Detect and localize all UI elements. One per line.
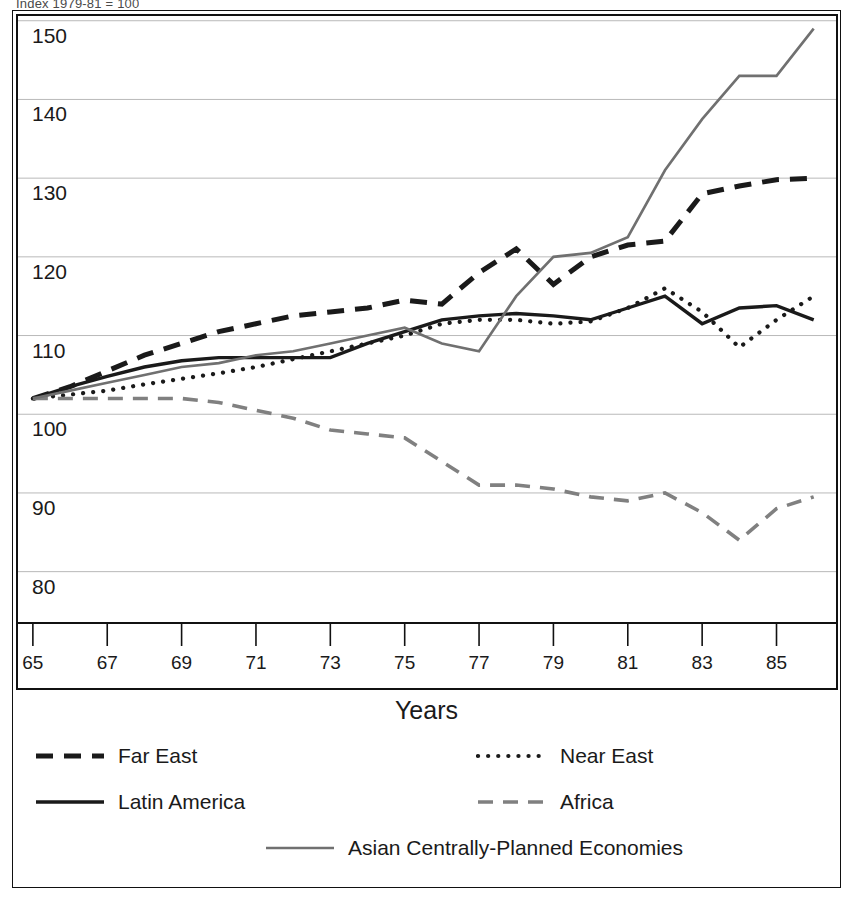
- legend-item-africa[interactable]: Africa: [476, 790, 614, 814]
- legend-item-label: Near East: [560, 744, 653, 768]
- x-axis-tick-label: 71: [245, 652, 266, 674]
- chart-legend: Far EastNear EastLatin AmericaAfricaAsia…: [16, 738, 838, 870]
- legend-line-icon: [34, 795, 106, 809]
- x-axis-tick-label: 81: [617, 652, 638, 674]
- legend-line-icon: [34, 749, 106, 763]
- y-axis-tick-label: 90: [32, 496, 55, 520]
- x-axis-tick-label: 73: [320, 652, 341, 674]
- x-axis-tick-label: 85: [766, 652, 787, 674]
- y-axis-tick-label: 110: [32, 339, 65, 363]
- legend-item-label: Africa: [560, 790, 614, 814]
- y-axis-tick-label: 120: [32, 260, 67, 284]
- x-axis-tick-label: 79: [543, 652, 564, 674]
- legend-item-near-east[interactable]: Near East: [476, 744, 653, 768]
- x-axis-tick-label: 65: [22, 652, 43, 674]
- legend-line-icon: [476, 795, 548, 809]
- chart-figure: Index 1979-81 = 100 15014013012011010090…: [0, 0, 853, 909]
- legend-line-icon: [264, 841, 336, 855]
- x-axis-tick-label: 67: [97, 652, 118, 674]
- x-axis-strip: [16, 624, 838, 690]
- plot-area: [16, 14, 838, 624]
- y-axis-tick-label: 150: [32, 24, 67, 48]
- legend-item-latin-america[interactable]: Latin America: [34, 790, 245, 814]
- legend-line-icon: [476, 749, 548, 763]
- y-axis-tick-label: 80: [32, 575, 55, 599]
- x-axis-tick-label: 77: [468, 652, 489, 674]
- series-line: [33, 29, 814, 399]
- legend-item-label: Asian Centrally-Planned Economies: [348, 836, 683, 860]
- legend-item-far-east[interactable]: Far East: [34, 744, 197, 768]
- plot-svg: [18, 16, 836, 622]
- series-line: [33, 288, 814, 398]
- series-line: [33, 296, 814, 398]
- y-axis-tick-label: 100: [32, 417, 67, 441]
- series-line: [33, 399, 814, 541]
- x-axis-tick-label: 69: [171, 652, 192, 674]
- legend-item-label: Far East: [118, 744, 197, 768]
- x-axis-tick-label: 83: [692, 652, 713, 674]
- x-axis-ticks-svg: [18, 624, 836, 686]
- x-axis-title: Years: [0, 696, 853, 725]
- legend-item-label: Latin America: [118, 790, 245, 814]
- top-caption: Index 1979-81 = 100: [16, 0, 139, 8]
- x-axis-tick-label: 75: [394, 652, 415, 674]
- y-axis-tick-label: 130: [32, 181, 67, 205]
- legend-item-asian-centrally-planned-economies[interactable]: Asian Centrally-Planned Economies: [264, 836, 683, 860]
- y-axis-tick-label: 140: [32, 102, 67, 126]
